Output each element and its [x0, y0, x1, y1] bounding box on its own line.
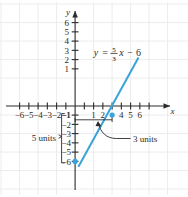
- equation-denominator: 3: [112, 55, 116, 63]
- equation-lhs: y: [93, 47, 99, 58]
- x-tick-label: 6: [138, 110, 143, 120]
- rise-label: 5 units: [32, 133, 57, 143]
- point-y-intercept: [73, 159, 78, 164]
- x-tick-label: −2: [52, 110, 62, 120]
- equation-variable: x: [118, 47, 124, 58]
- x-axis-label: x: [170, 106, 175, 116]
- x-tick-label: 5: [128, 110, 133, 120]
- y-tick-label: −6: [61, 157, 71, 167]
- y-tick-label: 1: [65, 64, 70, 74]
- run-label: 3 units: [133, 134, 158, 144]
- equation-equals: =: [102, 47, 108, 58]
- equation-minus: −: [127, 47, 133, 58]
- point-second: [110, 113, 115, 118]
- equation-constant: 6: [136, 47, 141, 58]
- y-axis-label: y: [65, 7, 70, 17]
- equation-numerator: 5: [112, 46, 116, 54]
- x-tick-label: 1: [91, 110, 96, 120]
- graph-figure: x y −6 −5: [0, 0, 188, 197]
- coordinate-plane-svg: x y −6 −5: [0, 0, 188, 197]
- x-tick-label: 4: [119, 110, 124, 120]
